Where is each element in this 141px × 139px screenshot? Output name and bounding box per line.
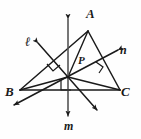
triangle-abc [20, 31, 120, 90]
point-p-dot [66, 75, 69, 78]
line-n [14, 50, 118, 105]
line-label-l: ℓ [25, 35, 31, 48]
side-ac [88, 31, 120, 90]
radii-from-p [20, 31, 120, 90]
vertex-label-a: A [86, 7, 95, 20]
right-angle-on-bc [61, 80, 71, 90]
segment-pc [68, 77, 120, 90]
line-label-m: m [64, 120, 73, 132]
point-label-p: P [78, 55, 85, 66]
vertex-label-c: C [121, 85, 130, 98]
line-label-n: n [120, 44, 127, 56]
right-angle-on-ac [96, 62, 103, 73]
vertex-label-b: B [5, 85, 14, 98]
geometry-figure: A B C ℓ n m P [0, 0, 141, 139]
